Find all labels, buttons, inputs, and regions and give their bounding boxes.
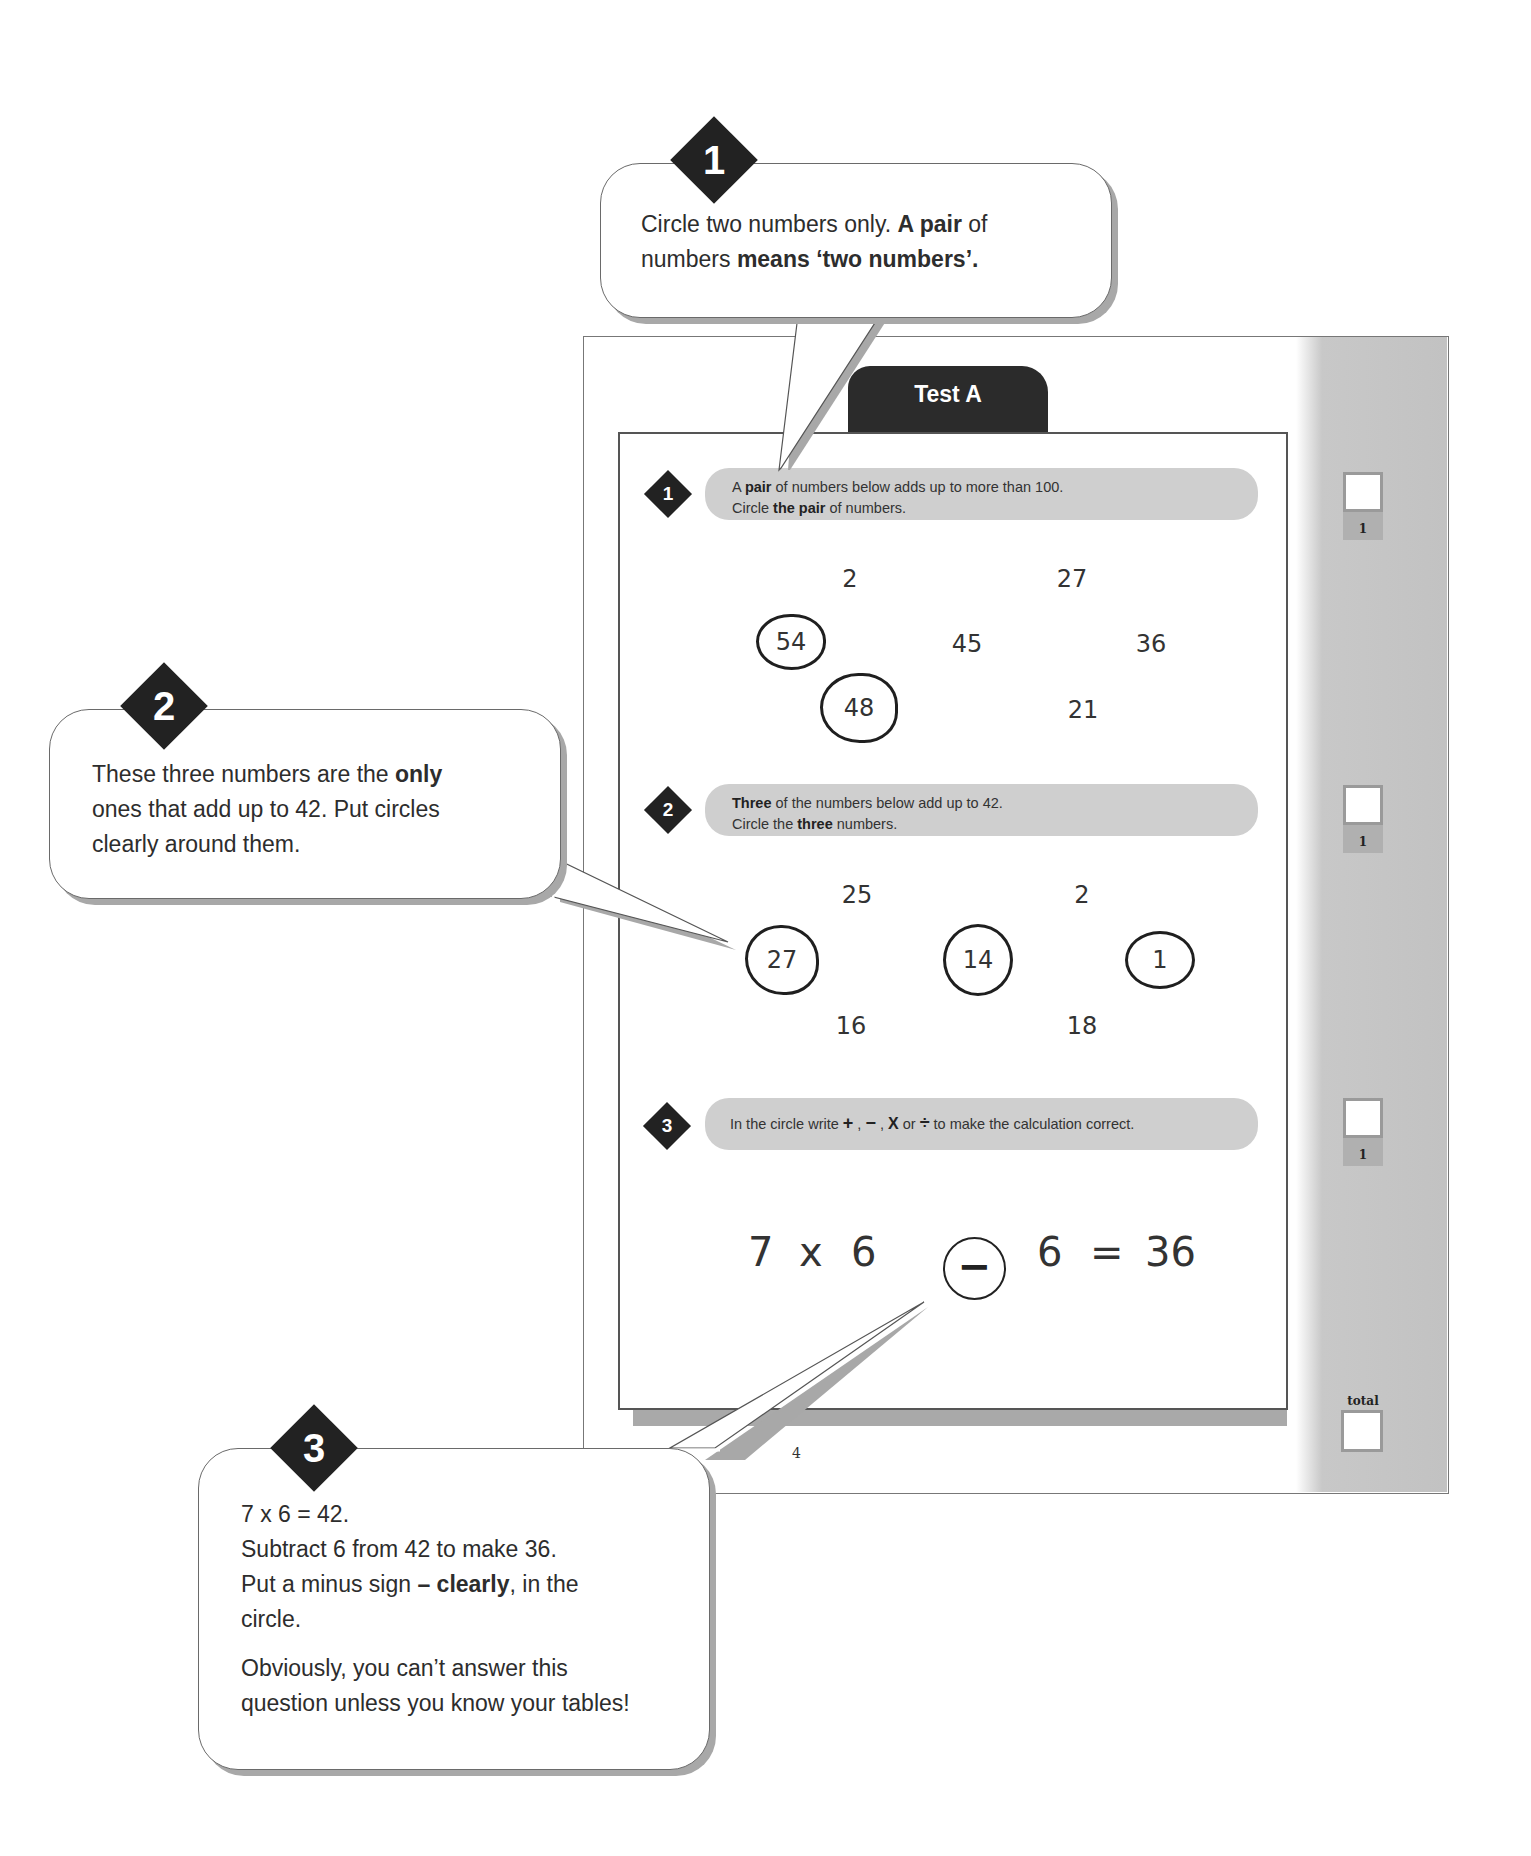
callout-1-text: Circle two numbers only. A pair of numbe…	[641, 207, 987, 277]
callout-3-badge: 3	[270, 1404, 358, 1492]
callout-3: 7 x 6 = 42. Subtract 6 from 42 to make 3…	[198, 1448, 710, 1770]
callout-3-text: 7 x 6 = 42. Subtract 6 from 42 to make 3…	[241, 1497, 630, 1721]
callout-3-number: 3	[270, 1404, 358, 1492]
callout-2-badge: 2	[120, 662, 208, 750]
callout-1-number: 1	[670, 116, 758, 204]
callout-1-badge: 1	[670, 116, 758, 204]
page-frame-edge	[583, 937, 584, 1447]
callout-2-number: 2	[120, 662, 208, 750]
callout-2-text: These three numbers are the only ones th…	[92, 757, 442, 862]
